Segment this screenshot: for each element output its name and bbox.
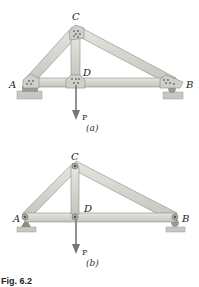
pin-d (72, 214, 78, 220)
truss-figure: C D A B P (a) C D A B P (b) Fig. 6.2 (0, 0, 199, 287)
load-arrow-head-icon (72, 110, 80, 120)
label-joint-c: C (72, 11, 80, 22)
support-a-base (17, 91, 42, 99)
member-ac (22, 163, 78, 220)
support-a-ground (17, 227, 36, 232)
label-joint-d: D (83, 203, 92, 214)
label-joint-d: D (82, 67, 91, 78)
support-b-ground (166, 227, 185, 232)
panel-a-label: (a) (86, 123, 99, 133)
member-ab (25, 213, 176, 222)
pin-c (72, 163, 78, 169)
figure-caption: Fig. 6.2 (1, 276, 32, 286)
gusset-plate-c (69, 25, 84, 40)
pin-a (22, 214, 28, 220)
label-joint-b: B (185, 79, 193, 90)
label-load-p: P (82, 113, 88, 122)
load-arrow-head-icon (72, 244, 80, 254)
member-cd (71, 167, 79, 214)
label-joint-a: A (12, 213, 20, 224)
panel-b: C D A B P (b) (12, 151, 189, 268)
gusset-plate-b (160, 75, 183, 88)
member-ab (28, 78, 176, 87)
label-load-p: P (82, 248, 88, 257)
label-joint-a: A (8, 79, 16, 90)
panel-a: C D A B P (a) (8, 11, 193, 133)
support-b-base (163, 92, 183, 99)
label-joint-b: B (181, 213, 189, 224)
panel-b-label: (b) (86, 258, 99, 268)
label-joint-c: C (71, 151, 79, 162)
pin-b (172, 214, 178, 220)
